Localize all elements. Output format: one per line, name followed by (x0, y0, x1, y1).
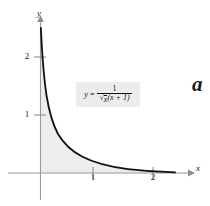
equation-equals-sign: = (90, 90, 95, 99)
fraction-numerator: 1 (110, 85, 120, 93)
denominator-factor: (x + 1) (107, 94, 129, 102)
radical-group: √ x (99, 94, 107, 104)
calculus-figure: y x 2 1 1 2 y = 1 √ x (x + 1) a (0, 0, 210, 206)
x-tick-label-2: 2 (148, 172, 158, 182)
x-tick-label-1: 1 (88, 172, 98, 182)
x-axis-label: x (196, 163, 200, 173)
y-axis-label: y (37, 8, 41, 18)
y-tick-label-2: 2 (22, 51, 32, 61)
figure-marker-glyph: a (192, 72, 202, 97)
y-tick-label-1: 1 (22, 109, 32, 119)
equation-expression: y = 1 √ x (x + 1) (84, 85, 131, 105)
equation-fraction: 1 √ x (x + 1) (97, 85, 131, 105)
x-axis-arrow (188, 170, 195, 177)
fraction-denominator: √ x (x + 1) (97, 94, 131, 104)
callout-pointer (78, 104, 96, 128)
equation-callout: y = 1 √ x (x + 1) (76, 82, 140, 107)
equation-lhs: y (84, 90, 88, 99)
